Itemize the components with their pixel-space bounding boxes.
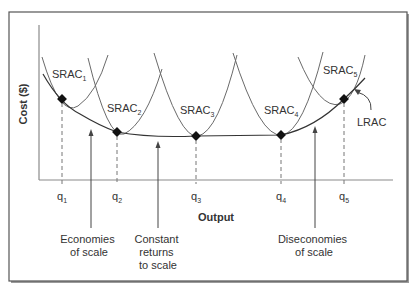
srac2-label: SRAC2 (107, 102, 142, 116)
srac4-label: SRAC4 (264, 104, 299, 118)
srac3-label: SRAC3 (180, 104, 215, 118)
lrac-label: LRAC (357, 116, 386, 128)
srac5-label: SRAC5 (323, 64, 358, 78)
srac1-label: SRAC1 (52, 68, 87, 82)
constant-returns-label: Constant returns to scale (134, 233, 181, 271)
cost-curves-diagram: Cost ($) Output LRAC SRAC1 SRAC2 SRAC3 S… (0, 0, 418, 291)
x-axis-label: Output (198, 211, 234, 223)
y-axis-label: Cost ($) (17, 83, 29, 124)
